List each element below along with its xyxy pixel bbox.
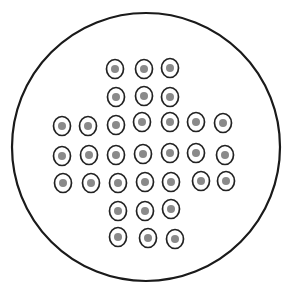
hole [108,146,125,165]
hole [55,174,72,193]
hole [135,145,152,164]
peg-icon [58,122,66,130]
hole [83,174,100,193]
peg-icon [166,93,174,101]
peg-icon [114,233,122,241]
hole [188,113,205,132]
hole [162,88,179,107]
hole [218,172,235,191]
hole [137,173,154,192]
hole [193,172,210,191]
peg-icon [112,151,120,159]
peg-icon [85,151,93,159]
hole [215,114,232,133]
peg-icon [111,65,119,73]
peg-icon [114,179,122,187]
peg-icon [144,234,152,242]
peg-icon [139,150,147,158]
peg-icon [141,178,149,186]
peg-icon [166,64,174,72]
peg-icon [87,179,95,187]
hole [162,144,179,163]
hole [134,113,151,132]
peg-icon [140,92,148,100]
peg-icon [219,119,227,127]
peg-solitaire-board-drawing [0,0,290,291]
peg-icon [59,179,67,187]
board-canvas [0,0,290,291]
peg-icon [141,207,149,215]
hole [163,200,180,219]
hole [54,117,71,136]
hole [162,113,179,132]
hole [137,202,154,221]
hole [167,230,184,249]
peg-icon [222,177,230,185]
hole [54,147,71,166]
hole [110,228,127,247]
hole [110,202,127,221]
hole [107,60,124,79]
hole [110,174,127,193]
peg-icon [192,118,200,126]
peg-icon [166,149,174,157]
peg-icon [192,149,200,157]
peg-icon [112,93,120,101]
holes-group [54,59,235,249]
peg-icon [114,207,122,215]
hole [108,88,125,107]
hole [162,59,179,78]
peg-icon [58,152,66,160]
peg-icon [167,178,175,186]
hole [108,116,125,135]
hole [163,173,180,192]
peg-icon [167,205,175,213]
peg-icon [138,118,146,126]
peg-icon [197,177,205,185]
hole [80,117,97,136]
peg-icon [140,65,148,73]
peg-icon [171,235,179,243]
hole [188,144,205,163]
hole [136,87,153,106]
hole [140,229,157,248]
hole [81,146,98,165]
hole [217,146,234,165]
hole [136,60,153,79]
peg-icon [166,118,174,126]
peg-icon [221,151,229,159]
peg-icon [112,121,120,129]
peg-icon [84,122,92,130]
